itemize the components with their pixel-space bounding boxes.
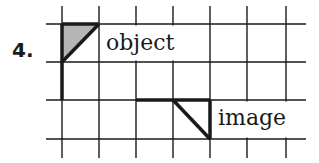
image-label: image bbox=[215, 107, 289, 129]
object-label: object bbox=[103, 32, 177, 54]
problem-number: 4. bbox=[12, 38, 34, 62]
grid-diagram bbox=[0, 0, 319, 163]
image-hypotenuse bbox=[173, 100, 210, 139]
